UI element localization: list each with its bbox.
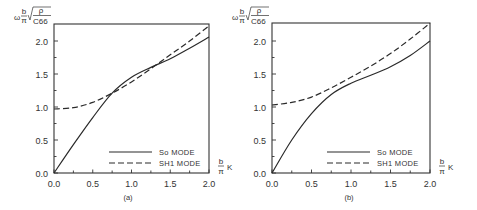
y-tick-label: 2.0 bbox=[253, 37, 266, 47]
sh1-mode-curve bbox=[54, 26, 209, 109]
svg-text:ω: ω bbox=[14, 13, 20, 22]
y-axis-label: ωbπρC66 bbox=[232, 6, 269, 26]
x-tick-label: 2.0 bbox=[424, 179, 437, 189]
legend-so-label: So MODE bbox=[377, 148, 413, 157]
y-tick-label: 1.5 bbox=[253, 70, 266, 80]
svg-text:π: π bbox=[239, 16, 245, 25]
sh1-mode-curve bbox=[272, 23, 430, 105]
x-tick-label: 0.0 bbox=[48, 179, 61, 189]
svg-text:b: b bbox=[22, 7, 27, 16]
panel-caption: (a) bbox=[123, 193, 133, 202]
x-tick-label: 0.5 bbox=[86, 179, 99, 189]
svg-text:K: K bbox=[227, 163, 233, 172]
x-tick-label: 1.5 bbox=[164, 179, 177, 189]
y-tick-label: 1.0 bbox=[35, 103, 48, 113]
panel-caption: (b) bbox=[344, 193, 354, 202]
svg-text:C66: C66 bbox=[251, 17, 266, 26]
y-tick-label: 0.0 bbox=[35, 169, 48, 179]
x-tick-label: 2.0 bbox=[203, 179, 216, 189]
svg-text:π: π bbox=[439, 167, 445, 176]
svg-text:b: b bbox=[240, 7, 245, 16]
panel-a: 0.00.51.01.52.00.00.51.01.52.0So MODESH1… bbox=[14, 6, 233, 202]
x-tick-label: 1.0 bbox=[345, 179, 358, 189]
y-tick-label: 1.5 bbox=[35, 70, 48, 80]
x-tick-label: 1.0 bbox=[125, 179, 138, 189]
svg-text:π: π bbox=[21, 16, 27, 25]
x-axis-label: bπK bbox=[218, 157, 233, 176]
svg-text:ω: ω bbox=[232, 13, 238, 22]
svg-text:ρ: ρ bbox=[257, 6, 262, 15]
y-tick-label: 2.0 bbox=[35, 37, 48, 47]
x-tick-label: 1.5 bbox=[384, 179, 397, 189]
svg-text:π: π bbox=[218, 167, 224, 176]
panel-b: 0.00.51.01.52.00.00.51.01.52.0So MODESH1… bbox=[232, 6, 454, 202]
legend-so-label: So MODE bbox=[159, 148, 195, 157]
y-tick-label: 0.0 bbox=[253, 169, 266, 179]
svg-text:b: b bbox=[219, 157, 224, 166]
y-tick-label: 0.5 bbox=[253, 136, 266, 146]
x-tick-label: 0.5 bbox=[305, 179, 318, 189]
dispersion-figure: 0.00.51.01.52.00.00.51.01.52.0So MODESH1… bbox=[0, 0, 477, 210]
svg-text:C66: C66 bbox=[33, 17, 48, 26]
x-tick-label: 0.0 bbox=[266, 179, 279, 189]
svg-text:b: b bbox=[440, 157, 445, 166]
y-axis-label: ωbπρC66 bbox=[14, 6, 51, 26]
legend-sh1-label: SH1 MODE bbox=[377, 159, 419, 168]
y-tick-label: 0.5 bbox=[35, 136, 48, 146]
x-axis-label: bπK bbox=[439, 157, 454, 176]
legend-sh1-label: SH1 MODE bbox=[159, 159, 201, 168]
svg-text:K: K bbox=[448, 163, 454, 172]
y-tick-label: 1.0 bbox=[253, 103, 266, 113]
svg-text:ρ: ρ bbox=[39, 6, 44, 15]
